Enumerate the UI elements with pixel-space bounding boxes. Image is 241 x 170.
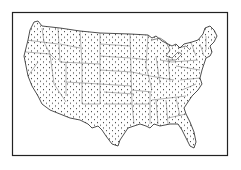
map-figure [0, 0, 241, 170]
us-map-svg [0, 0, 241, 170]
